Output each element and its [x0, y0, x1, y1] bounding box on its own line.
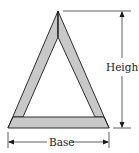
- right-frame-member: [58, 11, 109, 128]
- triangle-diagram: Height Base: [0, 0, 139, 153]
- base-label: Base: [49, 136, 75, 148]
- left-frame-member: [8, 11, 58, 128]
- height-arrow-down-icon: [120, 122, 125, 128]
- base-arrow-right-icon: [103, 140, 109, 145]
- height-arrow-up-icon: [120, 11, 125, 17]
- height-label: Height: [106, 61, 139, 73]
- diagram-canvas: Height Base: [0, 0, 139, 153]
- base-arrow-left-icon: [8, 140, 14, 145]
- base-frame-member: [8, 117, 109, 128]
